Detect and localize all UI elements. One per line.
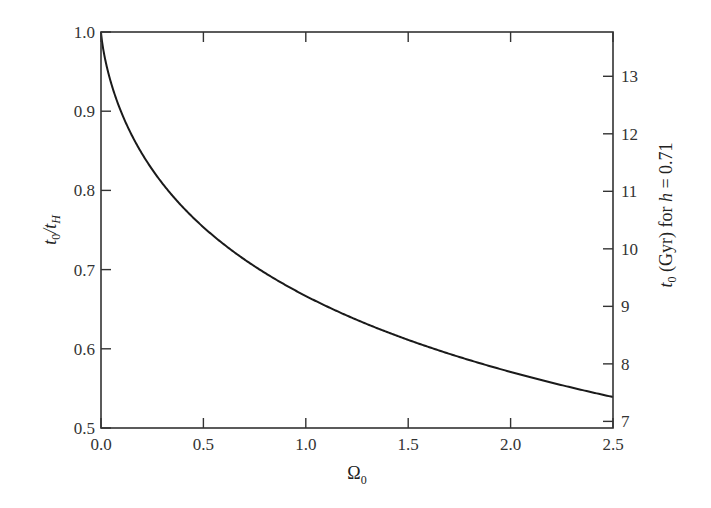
y-tick-label: 1.0	[74, 23, 95, 42]
y-axis-label-left: t0/tH	[40, 214, 63, 245]
y-tick-label: 0.5	[74, 419, 95, 438]
y-tick-label: 0.8	[74, 181, 95, 200]
x-tick-label: 1.5	[398, 435, 419, 454]
y-axis-label-right: t0 (Gyr) for h = 0.71	[656, 142, 679, 287]
y-tick-label: 0.9	[74, 102, 95, 121]
axis-ticks: 0.00.51.01.52.02.50.50.60.70.80.91.07891…	[74, 23, 638, 454]
x-tick-label: 0.5	[193, 435, 214, 454]
data-curve	[101, 32, 613, 397]
y2-tick-label: 13	[621, 67, 638, 86]
x-tick-label: 2.0	[500, 435, 521, 454]
y2-tick-label: 10	[621, 240, 638, 259]
y2-tick-label: 12	[621, 125, 638, 144]
y2-tick-label: 11	[621, 182, 637, 201]
x-tick-label: 1.0	[295, 435, 316, 454]
plot-frame	[101, 32, 613, 428]
y2-tick-label: 9	[621, 297, 630, 316]
chart: 0.00.51.01.52.02.50.50.60.70.80.91.07891…	[0, 0, 711, 508]
y-tick-label: 0.7	[74, 261, 96, 280]
x-tick-label: 2.5	[602, 435, 623, 454]
y2-tick-label: 8	[621, 355, 630, 374]
x-axis-label: Ω0	[347, 463, 366, 487]
y2-tick-label: 7	[621, 412, 630, 431]
curve-line	[101, 32, 613, 397]
y-tick-label: 0.6	[74, 340, 95, 359]
